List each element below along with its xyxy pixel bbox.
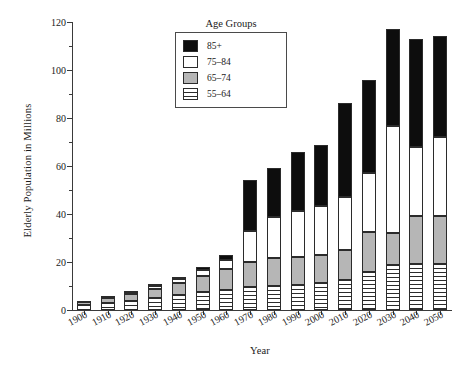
bar-1990[interactable] bbox=[291, 22, 305, 310]
bar-segment-1950-55-64[interactable] bbox=[196, 292, 210, 310]
bar-segment-1920-85+[interactable] bbox=[124, 291, 138, 293]
bar-segment-1930-65-74[interactable] bbox=[148, 289, 162, 298]
legend-item-label: 75–84 bbox=[207, 57, 231, 67]
bar-segment-1920-65-74[interactable] bbox=[124, 294, 138, 301]
bar-segment-2030-75-84[interactable] bbox=[386, 126, 400, 233]
x-tick-label: 2020 bbox=[351, 309, 374, 328]
y-tick-label: 80 bbox=[56, 113, 66, 124]
bar-segment-1980-65-74[interactable] bbox=[267, 258, 281, 286]
bar-segment-2020-65-74[interactable] bbox=[362, 232, 376, 272]
bar-segment-2020-75-84[interactable] bbox=[362, 173, 376, 232]
bar-2040[interactable] bbox=[409, 22, 423, 310]
bar-segment-2000-55-64[interactable] bbox=[314, 283, 328, 310]
legend-item-65-74[interactable]: 65–74 bbox=[183, 70, 279, 86]
bar-segment-1990-85+[interactable] bbox=[291, 152, 305, 211]
y-tick-major bbox=[67, 22, 72, 23]
x-tick-label: 2050 bbox=[422, 309, 445, 328]
legend-item-75-84[interactable]: 75–84 bbox=[183, 54, 279, 70]
y-axis-line bbox=[72, 22, 73, 310]
bar-segment-1980-75-84[interactable] bbox=[267, 217, 281, 258]
bar-2000[interactable] bbox=[314, 22, 328, 310]
bar-segment-1990-75-84[interactable] bbox=[291, 211, 305, 257]
x-tick-label: 1970 bbox=[232, 309, 255, 328]
bar-1930[interactable] bbox=[148, 22, 162, 310]
bar-2020[interactable] bbox=[362, 22, 376, 310]
bar-segment-1900-55-64[interactable] bbox=[77, 305, 91, 310]
x-tick-label: 1990 bbox=[280, 309, 303, 328]
bar-segment-1960-55-64[interactable] bbox=[219, 290, 233, 310]
bar-1920[interactable] bbox=[124, 22, 138, 310]
bar-2010[interactable] bbox=[338, 22, 352, 310]
bar-segment-1960-65-74[interactable] bbox=[219, 269, 233, 289]
bar-segment-1930-55-64[interactable] bbox=[148, 298, 162, 310]
bar-segment-2030-65-74[interactable] bbox=[386, 233, 400, 265]
bar-segment-1960-85+[interactable] bbox=[219, 255, 233, 260]
bar-segment-2010-65-74[interactable] bbox=[338, 250, 352, 280]
bar-segment-1940-85+[interactable] bbox=[172, 277, 186, 279]
y-tick-minor bbox=[69, 286, 72, 287]
bar-segment-1950-75-84[interactable] bbox=[196, 270, 210, 276]
chart-container: Elderly Population in Millions 020406080… bbox=[0, 0, 474, 367]
legend: Age Groups 85+75–8465–7455–64 bbox=[175, 18, 287, 108]
y-tick-minor bbox=[69, 142, 72, 143]
legend-item-label: 55–64 bbox=[207, 89, 231, 99]
bar-segment-2050-85+[interactable] bbox=[433, 36, 447, 137]
bar-segment-1910-55-64[interactable] bbox=[101, 303, 115, 310]
bar-segment-1980-55-64[interactable] bbox=[267, 286, 281, 310]
legend-item-85+[interactable]: 85+ bbox=[183, 38, 279, 54]
bar-1910[interactable] bbox=[101, 22, 115, 310]
bar-segment-2050-75-84[interactable] bbox=[433, 137, 447, 216]
bar-segment-2010-55-64[interactable] bbox=[338, 280, 352, 310]
x-tick-label: 2040 bbox=[398, 309, 421, 328]
bar-segment-1970-65-74[interactable] bbox=[243, 262, 257, 287]
bar-segment-2000-75-84[interactable] bbox=[314, 206, 328, 255]
bar-segment-1930-85+[interactable] bbox=[148, 284, 162, 286]
bar-segment-2000-65-74[interactable] bbox=[314, 255, 328, 282]
legend-item-55-64[interactable]: 55–64 bbox=[183, 86, 279, 102]
bar-segment-2040-85+[interactable] bbox=[409, 39, 423, 147]
bar-segment-1970-55-64[interactable] bbox=[243, 287, 257, 310]
bar-segment-1900-85+[interactable] bbox=[77, 301, 91, 303]
bar-segment-2030-85+[interactable] bbox=[386, 29, 400, 126]
bar-segment-2020-55-64[interactable] bbox=[362, 272, 376, 310]
x-tick-label: 2000 bbox=[303, 309, 326, 328]
y-tick-major bbox=[67, 166, 72, 167]
white-square-icon bbox=[183, 56, 198, 68]
x-axis-title: Year bbox=[60, 345, 460, 356]
x-tick-label: 1960 bbox=[208, 309, 231, 328]
bar-segment-1950-65-74[interactable] bbox=[196, 276, 210, 292]
bar-segment-2010-75-84[interactable] bbox=[338, 197, 352, 250]
bar-segment-2020-85+[interactable] bbox=[362, 80, 376, 174]
bar-segment-2040-75-84[interactable] bbox=[409, 147, 423, 217]
bar-2050[interactable] bbox=[433, 22, 447, 310]
bar-segment-1920-55-64[interactable] bbox=[124, 301, 138, 310]
bar-segment-1940-65-74[interactable] bbox=[172, 283, 186, 295]
bar-segment-2000-85+[interactable] bbox=[314, 145, 328, 206]
bar-segment-1940-55-64[interactable] bbox=[172, 295, 186, 310]
bar-segment-1910-65-74[interactable] bbox=[101, 298, 115, 303]
x-tick-label: 2010 bbox=[327, 309, 350, 328]
black-square-icon bbox=[183, 40, 198, 52]
bar-segment-2010-85+[interactable] bbox=[338, 103, 352, 197]
y-tick-label: 100 bbox=[51, 65, 66, 76]
gray-square-icon bbox=[183, 72, 198, 84]
bar-segment-1970-75-84[interactable] bbox=[243, 231, 257, 262]
bar-segment-2040-55-64[interactable] bbox=[409, 264, 423, 310]
bar-segment-2050-65-74[interactable] bbox=[433, 216, 447, 264]
bar-segment-1960-75-84[interactable] bbox=[219, 260, 233, 270]
legend-box: 85+75–8465–7455–64 bbox=[175, 32, 287, 108]
bar-segment-1970-85+[interactable] bbox=[243, 180, 257, 230]
bar-1900[interactable] bbox=[77, 22, 91, 310]
bar-segment-1990-55-64[interactable] bbox=[291, 285, 305, 310]
bar-segment-1990-65-74[interactable] bbox=[291, 257, 305, 285]
bar-segment-1950-85+[interactable] bbox=[196, 267, 210, 270]
bar-2030[interactable] bbox=[386, 22, 400, 310]
bar-segment-2040-65-74[interactable] bbox=[409, 216, 423, 264]
bar-segment-1980-85+[interactable] bbox=[267, 168, 281, 217]
bar-segment-2050-55-64[interactable] bbox=[433, 264, 447, 310]
bar-segment-1910-85+[interactable] bbox=[101, 296, 115, 298]
bar-segment-2030-55-64[interactable] bbox=[386, 265, 400, 310]
bar-segment-1940-75-84[interactable] bbox=[172, 279, 186, 284]
legend-item-label: 85+ bbox=[207, 41, 222, 51]
x-tick-label: 1980 bbox=[256, 309, 279, 328]
